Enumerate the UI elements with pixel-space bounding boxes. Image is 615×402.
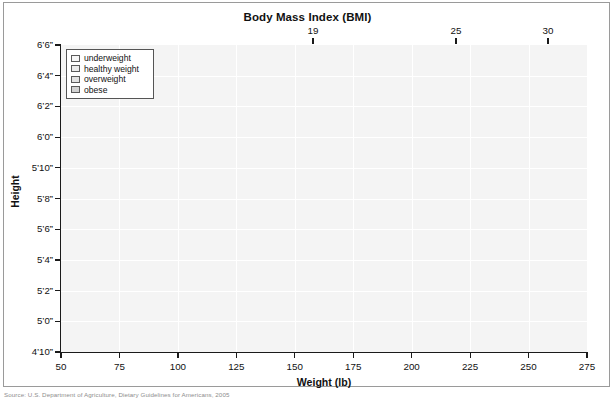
bmi-axis-tick-label: 19 xyxy=(293,25,333,36)
y-axis-tick-label: 6’0” xyxy=(5,131,53,142)
y-axis-tick xyxy=(55,229,61,230)
x-axis-tick-label: 225 xyxy=(450,361,490,372)
y-axis-tick xyxy=(55,44,61,45)
gridline-horizontal xyxy=(61,168,587,169)
chart-title: Body Mass Index (BMI) xyxy=(0,11,615,23)
gridline-horizontal xyxy=(61,321,587,322)
x-axis-tick-label: 175 xyxy=(333,361,373,372)
chart-legend: underweighthealthy weightoverweightobese xyxy=(66,49,154,99)
x-axis-tick-label: 125 xyxy=(216,361,256,372)
legend-swatch-icon xyxy=(71,86,80,93)
y-axis-labels: 6’6”6’4”6’2”6’0”5’10”5’8”5’6”5’4”5’2”5’0… xyxy=(0,0,53,402)
bmi-axis-tick xyxy=(312,38,313,44)
legend-item-label: overweight xyxy=(84,74,126,85)
gridline-horizontal xyxy=(61,229,587,230)
y-axis-tick xyxy=(55,290,61,291)
y-axis-tick-label: 5’2” xyxy=(5,285,53,296)
x-axis-line xyxy=(60,352,588,353)
x-axis-tick xyxy=(119,352,120,358)
y-axis-title: Height xyxy=(10,157,21,227)
x-axis-tick-label: 75 xyxy=(99,361,139,372)
y-axis-tick-label: 6’4” xyxy=(5,70,53,81)
legend-item-label: healthy weight xyxy=(84,64,139,75)
y-axis-tick xyxy=(55,75,61,76)
legend-item: obese xyxy=(71,85,149,96)
source-note: Source: U.S. Department of Agriculture, … xyxy=(4,391,230,398)
gridline-horizontal xyxy=(61,137,587,138)
x-axis-tick-label: 50 xyxy=(41,361,81,372)
legend-item: underweight xyxy=(71,53,149,64)
x-axis-tick xyxy=(470,352,471,358)
y-axis-tick xyxy=(55,106,61,107)
x-axis-tick xyxy=(353,352,354,358)
y-axis-tick xyxy=(55,321,61,322)
x-axis-tick-label: 200 xyxy=(392,361,432,372)
y-axis-tick-label: 5’4” xyxy=(5,254,53,265)
bmi-axis-tick xyxy=(547,38,548,44)
legend-swatch-icon xyxy=(71,55,80,62)
legend-item-label: obese xyxy=(84,85,107,96)
y-axis-tick xyxy=(55,198,61,199)
y-axis-tick-label: 6’2” xyxy=(5,100,53,111)
x-axis-tick xyxy=(60,352,61,358)
y-axis-tick-label: 6’6” xyxy=(5,39,53,50)
y-axis-tick xyxy=(55,167,61,168)
x-axis-tick xyxy=(411,352,412,358)
legend-item: healthy weight xyxy=(71,64,149,75)
x-axis-tick-label: 150 xyxy=(275,361,315,372)
x-axis-tick xyxy=(586,352,587,358)
y-axis-tick-label: 5’0” xyxy=(5,315,53,326)
x-axis-title: Weight (lb) xyxy=(61,376,587,388)
x-axis-tick xyxy=(177,352,178,358)
x-axis-tick-label: 100 xyxy=(158,361,198,372)
gridline-horizontal xyxy=(61,291,587,292)
legend-swatch-icon xyxy=(71,65,80,72)
x-axis-tick-label: 275 xyxy=(567,361,607,372)
gridline-horizontal xyxy=(61,260,587,261)
y-axis-tick xyxy=(55,137,61,138)
legend-item-label: underweight xyxy=(84,53,131,64)
x-axis-tick-label: 250 xyxy=(509,361,549,372)
bmi-axis-tick-label: 30 xyxy=(528,25,568,36)
x-axis-tick xyxy=(236,352,237,358)
y-axis-tick-label: 4’10” xyxy=(5,346,53,357)
gridline-horizontal xyxy=(61,199,587,200)
legend-swatch-icon xyxy=(71,76,80,83)
gridline-horizontal xyxy=(61,106,587,107)
bmi-axis-tick-label: 25 xyxy=(436,25,476,36)
x-axis-tick xyxy=(294,352,295,358)
bmi-axis-tick xyxy=(455,38,456,44)
x-axis-tick xyxy=(528,352,529,358)
legend-item: overweight xyxy=(71,74,149,85)
y-axis-tick xyxy=(55,259,61,260)
